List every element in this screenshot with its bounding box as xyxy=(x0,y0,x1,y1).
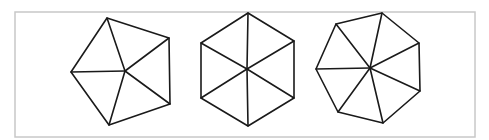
heptagon-spoke-5 xyxy=(316,68,370,69)
pentagon-spoke-4 xyxy=(71,71,125,72)
polygon-diagram xyxy=(0,0,489,140)
figure-frame xyxy=(15,12,475,137)
hexagon-spoke-0 xyxy=(247,13,248,69)
hexagon-spoke-3 xyxy=(247,69,248,126)
